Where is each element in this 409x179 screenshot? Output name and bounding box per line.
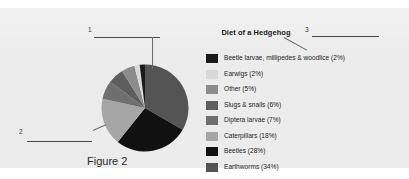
legend-item: Diptera larvae (7%) bbox=[206, 113, 406, 129]
legend-label: Slugs & snails (6%) bbox=[224, 102, 281, 109]
annotation-leader-line-1 bbox=[152, 37, 153, 69]
legend-label: Diptera larvae (7%) bbox=[224, 117, 281, 124]
worksheet-panel: Diet of a Hedgehog Beetle larvae, millip… bbox=[0, 8, 409, 168]
legend-label: Earwigs (2%) bbox=[224, 71, 263, 78]
legend-swatch bbox=[206, 163, 218, 172]
legend-swatch bbox=[206, 85, 218, 94]
annotation-number-1: 1 bbox=[88, 27, 92, 34]
legend-label: Beetles (28%) bbox=[224, 148, 265, 155]
legend-item: Earwigs (2%) bbox=[206, 67, 406, 83]
legend-swatch bbox=[206, 70, 218, 79]
pie-slice-group bbox=[102, 65, 189, 152]
legend-item: Beetles (28%) bbox=[206, 144, 406, 160]
legend-label: Earthworms (34%) bbox=[224, 164, 279, 171]
pie-chart-svg bbox=[101, 64, 189, 152]
legend-item: Beetle larvae, millipedes & woodlice (2%… bbox=[206, 51, 406, 67]
annotation-number-2: 2 bbox=[19, 129, 23, 136]
annotation-leader-line-3 bbox=[284, 37, 307, 50]
legend-label: Beetle larvae, millipedes & woodlice (2%… bbox=[224, 55, 345, 62]
legend-label: Other (5%) bbox=[224, 86, 256, 93]
legend-item: Other (5%) bbox=[206, 82, 406, 98]
legend-swatch bbox=[206, 54, 218, 63]
legend-swatch bbox=[206, 101, 218, 110]
annotation-answer-line-2[interactable] bbox=[27, 141, 92, 142]
annotation-number-3: 3 bbox=[305, 27, 309, 34]
legend-label: Caterpillars (18%) bbox=[224, 133, 277, 140]
figure-caption: Figure 2 bbox=[87, 156, 127, 167]
legend-item: Slugs & snails (6%) bbox=[206, 98, 406, 114]
chart-legend: Beetle larvae, millipedes & woodlice (2%… bbox=[206, 51, 406, 175]
legend-item: Caterpillars (18%) bbox=[206, 129, 406, 145]
pie-chart bbox=[101, 64, 189, 152]
annotation-answer-line-1[interactable] bbox=[94, 37, 160, 38]
legend-item: Earthworms (34%) bbox=[206, 160, 406, 176]
legend-swatch bbox=[206, 116, 218, 125]
annotation-answer-line-3[interactable] bbox=[312, 36, 379, 37]
legend-swatch bbox=[206, 132, 218, 141]
legend-swatch bbox=[206, 147, 218, 156]
